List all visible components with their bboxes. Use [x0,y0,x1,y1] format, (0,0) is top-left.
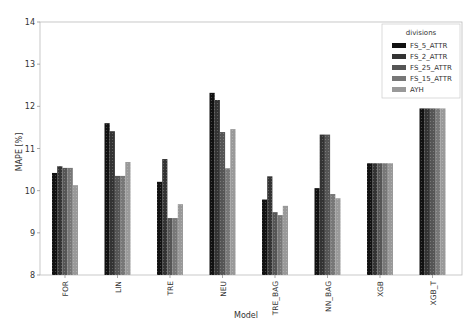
legend-label: FS_15_ATTR [410,75,452,83]
bar-texture [105,123,110,275]
bar-texture [330,194,335,275]
bar-texture [225,168,230,275]
bar-texture [68,168,73,275]
bar-texture [52,173,57,275]
bar-texture [267,176,272,275]
legend-label: AYH [410,86,424,94]
legend-swatch [392,87,406,92]
bar-texture [372,163,377,275]
y-tick-labels: 891011121314 [25,18,40,280]
bar-texture [367,163,372,275]
x-tick-label: NN_BAG [324,281,333,312]
y-axis-label: MAPE [%] [15,133,24,172]
y-tick-label: 10 [25,187,35,196]
bar-texture [215,100,220,275]
legend-label: FS_25_ATTR [410,64,452,72]
bar-texture [435,108,440,275]
legend: divisionsFS_5_ATTRFS_2_ATTRFS_25_ATTRFS_… [382,24,460,98]
bar-texture [430,108,435,275]
x-tick-label: TRE_BAG [271,281,280,316]
bar-texture [73,185,78,275]
bar-texture [262,200,267,275]
x-tick-label: XGB [376,281,385,297]
legend-swatch [392,65,406,70]
bar-texture [325,135,330,275]
legend-label: FS_5_ATTR [410,42,447,50]
legend-swatch [392,43,406,48]
bar-texture [115,176,120,275]
bar-texture [167,218,172,275]
bar-texture [315,188,320,275]
bar-chart: FORLINTRENEUTRE_BAGNN_BAGXGBXGB_T 891011… [0,0,476,332]
bar-texture [125,162,130,275]
legend-swatch [392,76,406,81]
legend-title: divisions [406,29,437,37]
legend-swatch [392,54,406,59]
bar-texture [420,108,425,275]
bar-texture [283,206,288,275]
y-tick-label: 14 [25,18,35,27]
chart-canvas: FORLINTRENEUTRE_BAGNN_BAGXGBXGB_T 891011… [0,0,476,332]
bar-texture [272,212,277,275]
bar-texture [388,163,393,275]
bar-texture [440,108,445,275]
bar-texture [62,168,67,275]
bar-texture [320,135,325,275]
y-tick-label: 8 [30,271,35,280]
y-tick-label: 9 [30,229,35,238]
x-tick-label: XGB_T [429,281,438,306]
bar-texture [425,108,430,275]
x-axis-label: Model [234,311,258,320]
x-tick-label: LIN [114,281,123,293]
bar-texture [278,215,283,275]
x-tick-label: TRE [166,281,175,297]
bar-texture [335,198,340,275]
legend-label: FS_2_ATTR [410,53,447,61]
bar-texture [220,132,225,275]
x-tick-label: FOR [61,281,70,296]
bar-texture [230,129,235,275]
bar-texture [210,93,215,275]
y-tick-label: 13 [25,60,35,69]
x-tick-label: NEU [219,281,228,297]
bar-texture [377,163,382,275]
bar-texture [178,204,183,275]
bar-texture [57,166,62,275]
bar-texture [110,131,115,275]
bar-texture [120,176,125,275]
bars [52,93,446,275]
bar-texture [162,159,167,275]
bar-texture [157,182,162,275]
y-tick-label: 11 [25,145,35,154]
bar-texture [173,218,178,275]
bar-texture [383,163,388,275]
y-tick-label: 12 [25,102,35,111]
